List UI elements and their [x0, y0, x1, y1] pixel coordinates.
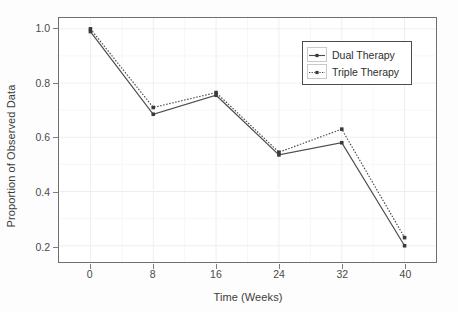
- x-axis-tick-mark: [342, 264, 343, 269]
- y-axis-tick-label: 1.0: [16, 23, 50, 33]
- y-axis-tick-labels: 0.20.40.60.81.0: [12, 0, 50, 312]
- x-axis-tick-label: 8: [133, 268, 173, 280]
- y-axis-tick-label: 0.4: [16, 187, 50, 197]
- x-axis-tick-label: 32: [322, 268, 362, 280]
- x-axis-tick-label: 16: [196, 268, 236, 280]
- y-axis-tick-mark: [53, 28, 58, 29]
- x-axis-title: Time (Weeks): [58, 291, 438, 303]
- y-axis-tick-mark: [53, 192, 58, 193]
- chart-legend: Dual Therapy Triple Therapy: [302, 41, 412, 85]
- legend-item-triple-therapy[interactable]: Triple Therapy: [307, 63, 406, 80]
- x-axis-tick-label: 24: [259, 268, 299, 280]
- y-axis-tick-mark: [53, 137, 58, 138]
- x-axis-tick-mark: [153, 264, 154, 269]
- y-axis-tick-mark: [53, 83, 58, 84]
- legend-item-dual-therapy[interactable]: Dual Therapy: [307, 46, 406, 63]
- x-axis-tick-mark: [279, 264, 280, 269]
- chart-figure: Proportion of Observed Data 0.20.40.60.8…: [0, 0, 458, 312]
- y-axis-tick-label: 0.6: [16, 132, 50, 142]
- y-axis-tick-mark: [53, 247, 58, 248]
- legend-label-triple-therapy: Triple Therapy: [332, 66, 399, 78]
- y-axis-tick-label: 0.8: [16, 78, 50, 88]
- y-axis-tick-label: 0.2: [16, 242, 50, 252]
- x-axis-tick-label: 40: [385, 268, 425, 280]
- x-axis-tick-label: 0: [70, 268, 110, 280]
- x-axis-tick-mark: [216, 264, 217, 269]
- legend-key-solid-line-icon: [307, 47, 327, 62]
- x-axis-tick-mark: [90, 264, 91, 269]
- x-axis-tick-mark: [405, 264, 406, 269]
- legend-label-dual-therapy: Dual Therapy: [332, 49, 395, 61]
- legend-key-dotted-line-icon: [307, 64, 327, 79]
